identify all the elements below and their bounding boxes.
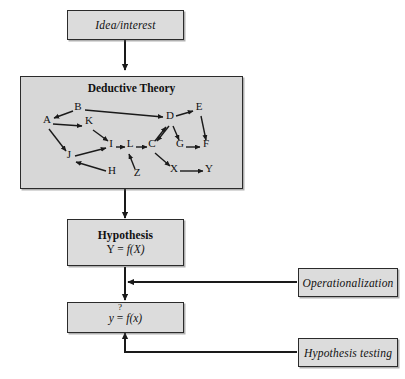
theory-node-C: C [148,137,155,149]
edge-K-I [93,130,108,141]
hypothesis-formula-right: f(X) [127,243,145,255]
empirical-hypothesis-box[interactable]: y ? = f(x) [67,302,184,333]
hypothesis-testing-box[interactable]: Hypothesis testing [298,338,398,367]
hypothesis-formula-left: Y [106,243,114,255]
edge-J-I [75,148,106,156]
theory-node-F: F [203,137,209,149]
theory-node-G: G [176,137,184,149]
edge-D-E [176,111,193,116]
theory-node-H: H [108,164,116,176]
theory-node-D: D [166,109,174,121]
question-mark: ? [118,303,122,313]
theory-node-I: I [109,137,113,149]
theory-node-E: E [196,100,203,112]
theory-node-network: ABKDEILCGFJHZXY [0,0,405,379]
operationalization-label: Operationalization [302,277,393,289]
theory-node-A: A [43,113,51,125]
empirical-formula-question-equals: ? = [117,312,124,325]
hypothesis-formula-equals: = [117,243,124,255]
edge-D-C [157,126,169,141]
hypothesis-title: Hypothesis [98,229,153,241]
empirical-formula-equals: = [117,312,124,324]
empirical-formula: y ? = f(x) [109,312,142,325]
edge-C-X [155,153,170,166]
edge-A-J [49,129,66,151]
edge-B-D [85,110,163,117]
empirical-formula-left: y [109,312,114,324]
hypothesis-formula: Y = f(X) [106,243,144,256]
theory-node-K: K [85,114,93,126]
hypothesis-box[interactable]: Hypothesis Y = f(X) [67,219,184,266]
edge-B-A [54,111,73,118]
edge-H-J [76,162,106,171]
hypothesis-testing-label: Hypothesis testing [304,347,392,359]
theory-node-J: J [67,148,72,160]
diagram-canvas: Idea/interest Deductive Theory ABKDE [0,0,405,379]
theory-node-L: L [127,137,134,149]
operationalization-box[interactable]: Operationalization [298,268,398,297]
theory-node-labels: ABKDEILCGFJHZXY [43,100,213,178]
theory-node-B: B [74,100,81,112]
edge-C-D [155,127,166,141]
empirical-formula-right: f(x) [126,312,142,324]
theory-node-Z: Z [134,166,141,178]
edge-A-K [53,124,82,126]
theory-node-X: X [170,162,178,174]
theory-node-Y: Y [205,162,213,174]
